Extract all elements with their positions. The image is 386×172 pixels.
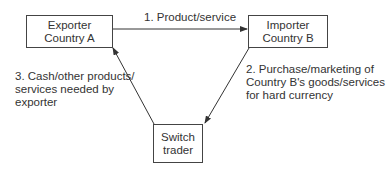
edge-label-purchase-marketing: 2. Purchase/marketing ofCountry B's good…: [246, 63, 385, 102]
node-label: Switch: [161, 131, 195, 143]
switch-trading-diagram: ExporterCountry A ImporterCountry B Swit…: [0, 0, 386, 172]
node-label: Country A: [44, 32, 95, 44]
node-label: Exporter: [48, 19, 91, 31]
importer-country-b-node: ImporterCountry B: [248, 15, 328, 48]
edge-label-product-service: 1. Product/service: [144, 11, 236, 24]
edge-label-cash-products: 3. Cash/other products/services needed b…: [15, 70, 135, 109]
exporter-country-a-node: ExporterCountry A: [26, 15, 113, 48]
node-label: trader: [163, 144, 193, 156]
node-label: Importer: [267, 19, 310, 31]
arrow-purchase-marketing: [205, 48, 249, 123]
node-label: Country B: [262, 32, 313, 44]
switch-trader-node: Switchtrader: [153, 124, 203, 163]
